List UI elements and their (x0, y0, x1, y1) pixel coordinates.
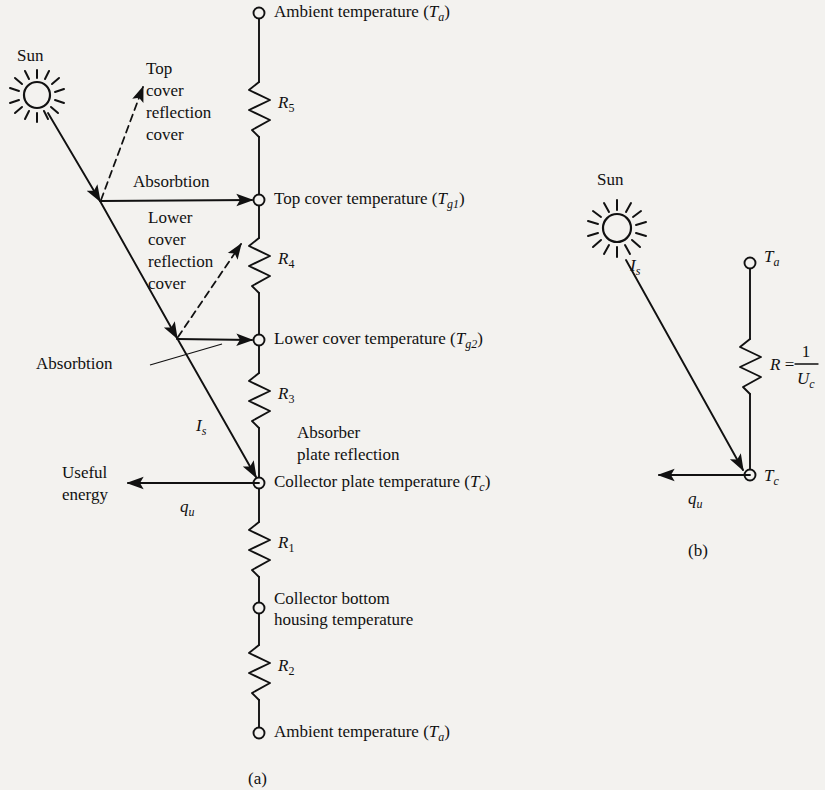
solar-ray-segment-3 (177, 338, 256, 477)
node-ambient-top (254, 8, 265, 19)
figure-root: Sun (0, 0, 825, 790)
resistor-R1-symbol (249, 522, 270, 577)
incident-flux-label-a: Is (195, 416, 207, 438)
resistor-label-R1: R1 (277, 533, 294, 555)
top-cover-reflection-line-4: cover (146, 125, 184, 144)
solar-ray-segment-1 (48, 113, 100, 201)
useful-heat-label-b: qu (688, 489, 703, 511)
node-label-collector-bottom-line1: Collector bottom (274, 589, 390, 608)
fraction-numerator-b: 1 (802, 342, 811, 361)
thermal-network-diagram: Sun (0, 0, 825, 790)
resistor-label-R2: R2 (277, 656, 294, 678)
node-ambient-bottom (254, 728, 265, 739)
sun-label-b: Sun (597, 170, 624, 189)
solar-ray-b (626, 260, 743, 470)
node-label-ambient-bottom: Ambient temperature (Ta) (274, 722, 450, 744)
node-label-top-cover: Top cover temperature (Tg1) (274, 189, 465, 211)
useful-energy-line-2: energy (62, 485, 108, 504)
node-label-ambient-top: Ambient temperature (Ta) (274, 2, 450, 24)
absorber-plate-reflection-line-2: plate reflection (297, 445, 400, 464)
lower-cover-reflection-line-3: reflection (148, 252, 214, 271)
absorbtion-arrow-lower (177, 339, 252, 340)
absorber-plate-reflection-line-1: Absorber (297, 423, 361, 442)
top-cover-reflection-line-2: cover (146, 81, 184, 100)
incident-flux-label-b: Is (629, 256, 641, 278)
panel-b: Sun Is Ta Tc R = (588, 170, 818, 560)
fraction-denominator-b: Uc (797, 369, 815, 391)
node-label-ambient-b: Ta (764, 247, 779, 269)
node-lower-cover (254, 335, 265, 346)
node-label-collector-b: Tc (764, 466, 779, 488)
node-collector-bottom (254, 603, 265, 614)
top-cover-reflection-line-1: Top (146, 59, 172, 78)
node-label-lower-cover: Lower cover temperature (Tg2) (274, 329, 483, 351)
resistor-R4-symbol (249, 238, 270, 293)
sun-icon-a (10, 70, 64, 122)
absorbtion-label-lower: Absorbtion (36, 354, 113, 373)
node-top-cover (254, 195, 265, 206)
resistor-R3-symbol (249, 373, 270, 428)
absorbtion-label-upper: Absorbtion (133, 172, 210, 191)
panel-a: Sun (10, 2, 490, 788)
node-ambient-b (745, 258, 756, 269)
absorbtion-arrow-top (100, 200, 252, 201)
resistor-fraction-b: 1 Uc (795, 342, 818, 391)
useful-heat-label-a: qu (180, 497, 195, 519)
node-label-collector-bottom-line2: housing temperature (274, 610, 413, 629)
resistor-label-R5: R5 (277, 93, 294, 115)
resistor-label-R4: R4 (277, 249, 294, 271)
sun-label-a: Sun (17, 46, 44, 65)
sun-icon-b (588, 200, 646, 257)
resistor-label-R3: R3 (277, 384, 294, 406)
resistor-R2-symbol (249, 645, 270, 700)
lower-cover-reflection-line-1: Lower (148, 208, 193, 227)
absorbtion-leader-line (150, 344, 222, 365)
top-cover-reflection-line-3: reflection (146, 103, 212, 122)
panel-a-caption: (a) (248, 769, 267, 788)
panel-b-caption: (b) (688, 541, 708, 560)
resistor-b-symbol (740, 339, 761, 394)
node-label-collector-plate: Collector plate temperature (Tc) (274, 472, 490, 494)
resistor-R5-symbol (249, 82, 270, 137)
lower-cover-reflection-line-4: cover (148, 274, 186, 293)
useful-energy-line-1: Useful (62, 463, 108, 482)
resistor-label-b: R = (769, 355, 794, 374)
lower-cover-reflection-line-2: cover (148, 230, 186, 249)
